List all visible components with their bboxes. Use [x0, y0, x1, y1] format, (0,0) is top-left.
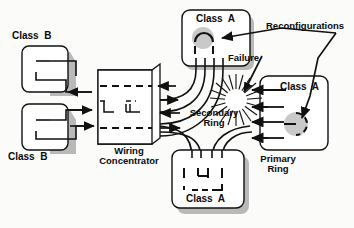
class-b-top-label: Class B — [12, 31, 51, 42]
class-b-bottom-label: Class B — [8, 152, 47, 163]
diagram-graphics — [0, 0, 354, 228]
failure-label: Failure — [228, 53, 259, 63]
class-a-top-label: Class A — [196, 14, 235, 25]
diagram-canvas: Class B Class B WiringConcentrator Class… — [0, 0, 354, 228]
class-a-bottom-label: Class A — [186, 194, 225, 205]
wiring-concentrator-label: WiringConcentrator — [96, 146, 162, 166]
class-b-top-node — [22, 46, 92, 92]
wiring-concentrator-node — [98, 64, 160, 144]
primary-ring-label: PrimaryRing — [252, 154, 304, 174]
class-a-right-label: Class A — [280, 82, 319, 93]
class-b-bottom-node — [22, 104, 92, 150]
secondary-ring-label: SecondaryRing — [183, 108, 245, 128]
reconfigurations-label: Reconfigurations — [266, 21, 344, 31]
